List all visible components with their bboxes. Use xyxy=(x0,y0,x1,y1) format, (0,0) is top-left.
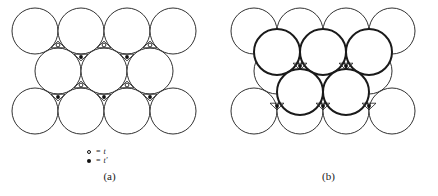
legend-row-t: = t xyxy=(84,147,108,156)
t-site-open-dot xyxy=(148,43,152,47)
t-site-open-dot xyxy=(102,43,106,47)
sphere-circle xyxy=(150,88,196,134)
t-prime-site-filled-dot xyxy=(79,55,83,59)
panel-a: = t = t′ (a) xyxy=(0,0,219,196)
legend-equals: = xyxy=(96,147,101,156)
sphere-circle xyxy=(12,88,58,134)
sphere-circle xyxy=(81,48,127,94)
sphere-circle xyxy=(12,8,58,54)
o-site-filled-dot xyxy=(298,64,302,68)
panel-b-caption: (b) xyxy=(219,170,438,182)
sphere-circle xyxy=(104,8,150,54)
o-site-filled-dot xyxy=(344,64,348,68)
t-prime-site-filled-dot xyxy=(56,95,60,99)
filled-circle-icon xyxy=(84,156,93,165)
o-site-filled-dot xyxy=(321,104,325,108)
sphere-circle xyxy=(35,48,81,94)
panel-a-drawing xyxy=(0,0,219,145)
legend-value-t: t xyxy=(104,147,106,156)
t-site-open-dot xyxy=(125,83,129,87)
sphere-circle xyxy=(231,88,277,134)
sphere-circle xyxy=(346,29,392,75)
open-circle-icon xyxy=(84,147,93,156)
sphere-circle xyxy=(277,69,323,115)
panel-a-caption: (a) xyxy=(0,170,219,182)
sphere-circle xyxy=(300,29,346,75)
legend-value-t-prime: t′ xyxy=(104,156,108,165)
t-prime-site-filled-dot xyxy=(148,95,152,99)
legend-row-t-prime: = t′ xyxy=(84,156,108,165)
panel-a-legend: = t = t′ xyxy=(84,147,108,165)
o-site-filled-dot xyxy=(367,104,371,108)
panel-b-drawing xyxy=(219,0,438,145)
t-prime-site-filled-dot xyxy=(102,95,106,99)
sphere-circle xyxy=(254,29,300,75)
panel-b: = o (b) xyxy=(219,0,438,196)
sphere-circle xyxy=(104,88,150,134)
sphere-circle xyxy=(127,48,173,94)
t-site-open-dot xyxy=(56,43,60,47)
t-site-open-dot xyxy=(79,83,83,87)
sphere-circle xyxy=(150,8,196,54)
legend-equals: = xyxy=(96,156,101,165)
t-prime-site-filled-dot xyxy=(125,55,129,59)
figure-container: = t = t′ (a) = o (b) xyxy=(0,0,438,196)
sphere-circle xyxy=(369,88,415,134)
sphere-circle xyxy=(58,88,104,134)
sphere-circle xyxy=(58,8,104,54)
o-site-filled-dot xyxy=(275,104,279,108)
sphere-circle xyxy=(323,69,369,115)
